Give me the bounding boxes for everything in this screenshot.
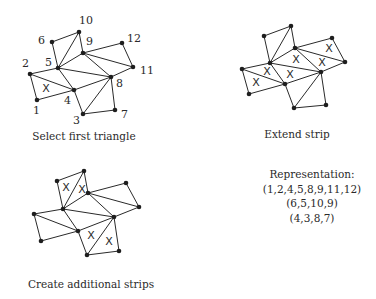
edge-2-5: [34, 209, 63, 214]
edge-5-9: [58, 53, 83, 68]
vertex-label-10: 10: [79, 14, 93, 27]
edge-11-12: [122, 43, 133, 67]
edge-7-8: [111, 77, 115, 110]
edge-6-10: [57, 171, 84, 181]
vertex-5: [61, 207, 66, 212]
selected-triangle-x-mark: X: [325, 42, 333, 55]
vertex-8: [112, 215, 117, 220]
vertex-11: [343, 60, 348, 65]
edge-2-4: [34, 214, 78, 231]
vertex-8: [109, 75, 114, 80]
edge-4-8: [74, 77, 111, 90]
edge-3-4: [78, 231, 87, 255]
edge-8-11: [111, 67, 133, 77]
vertex-3: [81, 112, 86, 117]
vertex-1: [35, 98, 40, 103]
triangle-strip-diagram: 123456789101112XSelect first triangle XX…: [0, 0, 376, 299]
representation-title: Representation:: [269, 168, 354, 180]
edge-4-5: [270, 63, 285, 84]
vertex-9: [81, 51, 86, 56]
vertex-7: [113, 108, 118, 113]
edge-5-10: [58, 32, 79, 68]
vertex-9: [86, 191, 91, 196]
panel-select-first-triangle: 123456789101112XSelect first triangle: [22, 14, 154, 142]
representation-strip-1: (1,2,4,5,8,9,11,12): [263, 183, 361, 195]
selected-triangle-x-mark: X: [78, 183, 86, 196]
vertex-1: [247, 92, 252, 97]
edge-3-4: [74, 90, 83, 114]
vertex-label-3: 3: [73, 114, 80, 127]
selected-triangle-x-mark: X: [252, 76, 260, 89]
vertex-2: [32, 212, 37, 217]
vertex-6: [262, 34, 267, 39]
edge-5-10: [270, 26, 291, 63]
edge-7-8: [114, 217, 119, 251]
vertex-6: [50, 40, 55, 45]
selected-triangle-x-mark: X: [42, 82, 50, 95]
selected-triangle-x-mark: X: [263, 65, 271, 78]
vertex-label-7: 7: [121, 108, 128, 121]
vertex-label-12: 12: [127, 32, 141, 45]
edge-3-8: [83, 77, 111, 114]
vertex-10: [82, 169, 87, 174]
selected-triangle-x-mark: X: [292, 53, 300, 66]
selected-triangle-x-mark: X: [87, 229, 95, 242]
vertex-4: [76, 229, 81, 234]
edge-2-5: [30, 68, 58, 74]
vertex-label-2: 2: [22, 57, 29, 70]
vertex-8: [319, 70, 324, 75]
edge-5-6: [52, 42, 58, 68]
representation-block: Representation: (1,2,4,5,8,9,11,12) (6,5…: [263, 168, 361, 224]
edge-6-10: [52, 32, 79, 42]
vertex-3: [292, 106, 297, 111]
vertex-12: [330, 36, 335, 41]
vertex-11: [137, 205, 142, 210]
vertex-10: [289, 24, 294, 29]
panel-create-additional-strips: XXXXCreate additional strips: [28, 169, 154, 290]
edge-9-10: [79, 32, 83, 53]
edge-3-7: [87, 251, 119, 255]
panel-caption: Create additional strips: [28, 278, 154, 290]
vertex-1: [39, 239, 44, 244]
vertex-12: [120, 41, 125, 46]
selected-triangle-x-mark: X: [105, 235, 113, 248]
panel-caption: Extend strip: [264, 128, 330, 140]
edge-5-6: [264, 36, 270, 63]
edge-3-7: [294, 105, 326, 108]
edge-3-4: [285, 84, 294, 108]
edge-3-8: [294, 72, 321, 108]
vertex-4: [283, 82, 288, 87]
vertex-label-9: 9: [86, 35, 93, 48]
edge-2-4: [30, 74, 74, 90]
edge-5-8: [58, 68, 111, 77]
edge-7-8: [321, 72, 326, 105]
edge-1-2: [30, 74, 37, 100]
vertex-2: [240, 67, 245, 72]
panel-caption: Select first triangle: [32, 130, 135, 142]
selected-triangle-x-mark: X: [318, 56, 326, 69]
edge-9-12: [88, 183, 126, 193]
vertex-6: [55, 179, 60, 184]
edge-6-10: [264, 26, 291, 36]
vertex-3: [85, 253, 90, 258]
edge-11-12: [126, 183, 139, 207]
edge-8-11: [114, 207, 139, 217]
vertex-10: [77, 30, 82, 35]
edge-1-2: [34, 214, 41, 241]
vertex-5: [56, 66, 61, 71]
edge-3-7: [83, 110, 115, 114]
vertex-label-8: 8: [116, 77, 123, 90]
vertex-label-1: 1: [33, 104, 40, 117]
representation-strip-2: (6,5,10,9): [286, 197, 338, 209]
vertex-7: [324, 103, 329, 108]
edge-1-2: [242, 69, 249, 94]
vertex-label-4: 4: [64, 94, 71, 107]
edge-1-4: [41, 231, 78, 241]
vertex-9: [293, 46, 298, 51]
vertex-11: [131, 65, 136, 70]
edge-9-10: [291, 26, 295, 48]
panel-extend-strip: XXXXXXExtend strip: [240, 24, 348, 140]
selected-triangle-x-mark: X: [286, 68, 294, 81]
vertex-4: [72, 88, 77, 93]
vertex-2: [28, 72, 33, 77]
